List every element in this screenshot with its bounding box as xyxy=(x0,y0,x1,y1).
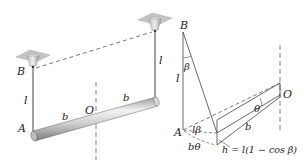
rod xyxy=(30,96,160,141)
label-l-beta: lβ xyxy=(192,124,201,135)
bifilar-pendulum-diagram: B l A b O b l B l β A xyxy=(0,0,304,165)
label-O-right: O xyxy=(283,88,292,101)
label-B-right: B xyxy=(179,19,188,32)
left-view: B l A b O b l xyxy=(16,13,172,160)
label-b-left: b xyxy=(62,111,68,122)
right-view: B l β A lβ bθ θ b O h = l(1 − cos β) xyxy=(173,19,297,155)
line-B-displaced xyxy=(183,32,217,133)
label-theta: θ xyxy=(254,103,260,114)
h-formula: h = l(1 − cos β) xyxy=(222,144,297,155)
label-l: l xyxy=(176,72,180,85)
label-A-right: A xyxy=(173,126,182,139)
label-B-left: B xyxy=(16,65,25,78)
label-l-right: l xyxy=(159,54,163,67)
theta-arc xyxy=(260,98,262,106)
label-beta: β xyxy=(183,61,190,72)
label-l-left: l xyxy=(24,94,28,107)
label-O-left: O xyxy=(85,104,94,117)
ceiling-mount-right xyxy=(138,13,172,32)
label-b-theta: bθ xyxy=(188,141,200,152)
beta-arc xyxy=(183,56,191,58)
dashed-top-line xyxy=(36,32,152,68)
label-A-left: A xyxy=(17,122,26,135)
label-b-right: b xyxy=(123,92,129,103)
line-A-O xyxy=(183,83,280,130)
label-b-right-view: b xyxy=(245,121,251,132)
